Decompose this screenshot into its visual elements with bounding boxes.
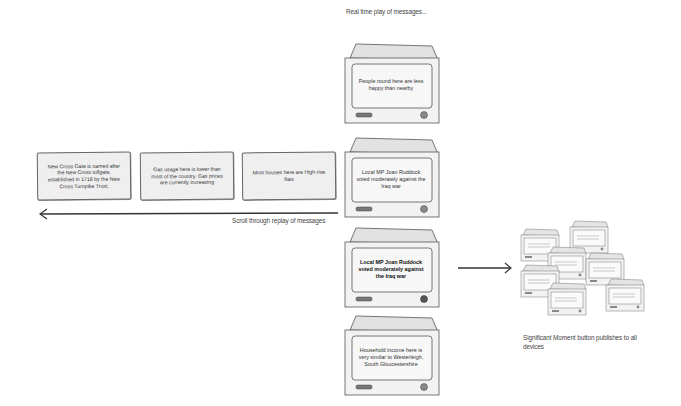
device-screen-text: Local MP Joan Ruddock voted moderately a… (356, 160, 426, 198)
published-devices-cluster (515, 220, 655, 320)
replay-message-box[interactable]: Gas usage here is lower than most of the… (140, 152, 234, 201)
device-screen-text: People round here are less happy than ne… (356, 66, 426, 104)
realtime-caption: Real time play of messages... (346, 8, 427, 15)
message-device: People round here are less happy than ne… (342, 42, 440, 124)
significant-moment-caption: Significant Moment button publishes to a… (523, 333, 643, 351)
mini-device (547, 282, 587, 316)
replay-message-text: Gas usage here is lower than most of the… (147, 166, 227, 187)
replay-message-text: New Cross Gate is named after the New Cr… (44, 162, 124, 189)
device-screen-text: Household income here is very similar to… (356, 338, 426, 376)
message-device: Local MP Joan Ruddock voted moderately a… (342, 136, 440, 218)
message-device: Household income here is very similar to… (342, 314, 440, 396)
replay-message-box[interactable]: New Cross Gate is named after the New Cr… (37, 152, 131, 201)
significant-moment-button-icon (421, 296, 428, 303)
device-screen-text: Local MP Joan Ruddock voted moderately a… (356, 250, 426, 288)
mini-device (605, 278, 645, 312)
replay-message-box[interactable]: Most houses here are High-rise flats (242, 152, 336, 201)
publish-right-arrow-icon (456, 262, 516, 274)
replay-message-text: Most houses here are High-rise flats (249, 169, 329, 183)
scroll-caption: Scroll through replay of messages (232, 217, 325, 224)
message-device-highlighted: Local MP Joan Ruddock voted moderately a… (342, 226, 440, 308)
